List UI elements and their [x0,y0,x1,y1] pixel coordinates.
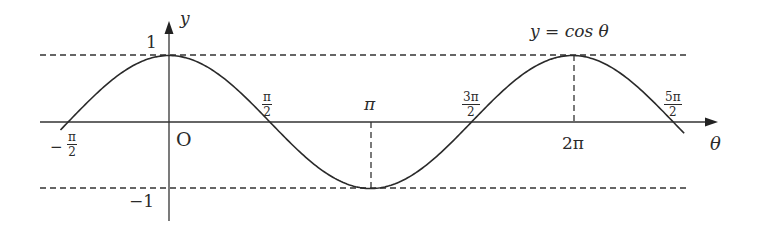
cosine-plot [0,0,757,230]
neg-sign: − [50,138,63,156]
frac-denominator: 2 [467,105,475,118]
equation-label: y = cos θ [530,23,609,40]
x-tick-two-pi: 2π [562,135,584,152]
x-tick-pi: π [364,96,375,113]
y-tick-1: 1 [146,34,157,51]
frac-numerator: π [262,91,272,105]
frac-denominator: 2 [68,145,76,158]
y-axis-label: y [180,10,190,27]
origin-label: O [176,130,192,149]
x-axis-label: θ [710,135,721,153]
y-axis-arrow-icon [165,21,174,34]
x-tick-three-half-pi: 3π 2 [462,91,480,118]
frac-denominator: 2 [669,105,677,118]
frac-numerator: π [67,131,77,145]
x-axis-arrow-icon [705,118,718,127]
x-tick-neg-half-pi: π 2 [67,131,77,158]
x-tick-five-half-pi: 5π 2 [664,91,682,118]
frac-denominator: 2 [263,105,271,118]
x-tick-half-pi: π 2 [262,91,272,118]
frac-numerator: 3π [462,91,480,105]
y-tick-neg-1: −1 [129,193,154,210]
frac-numerator: 5π [664,91,682,105]
